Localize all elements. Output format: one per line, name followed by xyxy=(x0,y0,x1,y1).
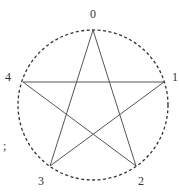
star-edges xyxy=(23,30,164,166)
dashed-circle xyxy=(18,30,168,180)
edge-2-4 xyxy=(23,82,136,166)
vertex-label-4: 4 xyxy=(5,70,11,84)
edge-3-0 xyxy=(50,30,93,166)
vertex-label-2: 2 xyxy=(138,174,144,188)
stray-mark: ; xyxy=(3,139,6,153)
edge-0-2 xyxy=(93,30,136,166)
vertex-label-0: 0 xyxy=(90,7,96,21)
edge-1-3 xyxy=(50,82,164,166)
vertex-label-3: 3 xyxy=(38,174,44,188)
pentagram-diagram: 01234 ; xyxy=(0,0,179,192)
vertex-label-1: 1 xyxy=(172,70,178,84)
